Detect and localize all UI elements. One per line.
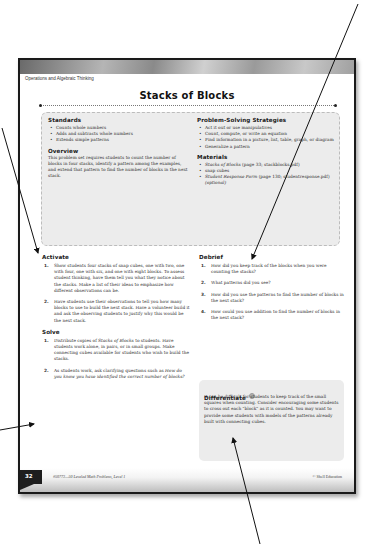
activate-item: 1.Show students four stacks of snap cube… xyxy=(42,263,190,294)
material-detail: (page 33; stackblocks.pdf) xyxy=(241,162,300,167)
document-page: Operations and Algebraic Thinking Stacks… xyxy=(18,58,356,494)
overview-heading: Overview xyxy=(48,148,188,154)
title-divider xyxy=(40,105,336,106)
debrief-list: 1.How did you keep track of the blocks w… xyxy=(199,263,344,321)
activate-list: 1.Show students four stacks of snap cube… xyxy=(42,263,190,324)
solve-list: 1.Distribute copies of Stacks of Blocks … xyxy=(42,338,190,380)
material-item: Student Response Form (page 130; student… xyxy=(197,174,335,186)
material-title: Student Response Form xyxy=(205,174,257,179)
book-reference: #50773—50 Leveled Math Problems, Level 1 xyxy=(53,474,125,479)
info-right-column: Problem-Solving Strategies Act it out or… xyxy=(197,117,335,187)
differentiate-text: It can be difficult for students to keep… xyxy=(204,394,340,425)
solve-item: 1.Distribute copies of Stacks of Blocks … xyxy=(42,338,190,363)
right-column: Debrief 1.How did you keep track of the … xyxy=(199,254,344,326)
standards-item: Extends simple patterns xyxy=(48,137,188,143)
debrief-item: 4.How could you use addition to find the… xyxy=(199,309,344,321)
material-title: Stacks of Blocks xyxy=(205,162,241,167)
solve-heading: Solve xyxy=(42,329,190,335)
solve-item: 2.As students work, ask clarifying quest… xyxy=(42,368,190,380)
activate-item: 2.Have students use their observations t… xyxy=(42,299,190,324)
material-detail: snap cubes xyxy=(205,168,229,173)
materials-list: Stacks of Blocks (page 33; stackblocks.p… xyxy=(197,162,335,187)
material-optional: (optional) xyxy=(205,180,226,185)
page-footer: 32 #50773—50 Leveled Math Problems, Leve… xyxy=(20,468,354,492)
category-label: Operations and Algebraic Thinking xyxy=(25,76,94,81)
debrief-item: 2.What patterns did you see? xyxy=(199,280,344,286)
debrief-item: 3.How did you use the patterns to find t… xyxy=(199,292,344,304)
left-column: Activate 1.Show students four stacks of … xyxy=(42,254,190,385)
debrief-heading: Debrief xyxy=(199,254,344,260)
strategy-item: Generalize a pattern xyxy=(197,144,335,150)
material-detail: (page 130; studentresponse.pdf) xyxy=(257,174,329,179)
info-box: Standards Counts whole numbers Adds and … xyxy=(41,112,340,246)
page-number: 32 xyxy=(20,470,42,484)
activate-heading: Activate xyxy=(42,254,190,260)
page-title: Stacks of Blocks xyxy=(20,90,354,101)
copyright: © Shell Education xyxy=(313,474,342,479)
strategies-list: Act it out or use manipulatives Count, c… xyxy=(197,125,335,150)
info-left-column: Standards Counts whole numbers Adds and … xyxy=(48,117,188,179)
page-number-tab xyxy=(20,484,34,490)
overview-text: This problem set requires students to co… xyxy=(48,155,188,180)
materials-heading: Materials xyxy=(197,154,335,160)
standards-heading: Standards xyxy=(48,117,188,123)
standards-list: Counts whole numbers Adds and subtracts … xyxy=(48,125,188,144)
strategies-heading: Problem-Solving Strategies xyxy=(197,117,335,123)
debrief-item: 1.How did you keep track of the blocks w… xyxy=(199,263,344,275)
differentiate-box: Differentiate It can be difficult for st… xyxy=(199,380,344,461)
header-band xyxy=(20,60,354,74)
